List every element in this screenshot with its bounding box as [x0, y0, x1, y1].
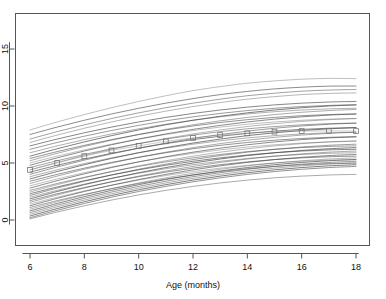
y-axis-tick-label: 0	[0, 217, 10, 222]
y-axis-tick-label: 5	[0, 160, 10, 165]
y-axis-tick-label: 15	[0, 44, 10, 54]
x-axis-tick-label: 16	[297, 262, 307, 272]
y-axis-tick-label: 10	[0, 101, 10, 111]
plot-svg: 681012141618 051015 Age (months)	[0, 0, 386, 299]
x-axis-tick-label: 6	[27, 262, 32, 272]
chart-figure: 681012141618 051015 Age (months)	[0, 0, 386, 299]
x-axis-tick-label: 14	[242, 262, 252, 272]
x-axis-tick-label: 18	[351, 262, 361, 272]
x-axis-tick-label: 8	[82, 262, 87, 272]
x-axis-tick-label: 12	[188, 262, 198, 272]
x-axis-title: Age (months)	[166, 280, 220, 290]
x-axis-tick-label: 10	[134, 262, 144, 272]
